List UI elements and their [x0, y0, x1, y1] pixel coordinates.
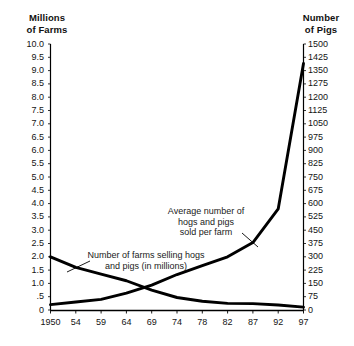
plot-area	[0, 0, 354, 346]
left-axis-tick-marks	[48, 44, 51, 310]
annotation-pigs: Average number of hogs and pigs sold per…	[158, 206, 254, 238]
hogs-and-pigs-line-chart: Millions of Farms Number of Pigs 10.09.5…	[0, 0, 354, 346]
right-axis-tick-marks	[304, 44, 307, 310]
annotation-farms: Number of farms selling hogs and pigs (i…	[66, 250, 226, 271]
